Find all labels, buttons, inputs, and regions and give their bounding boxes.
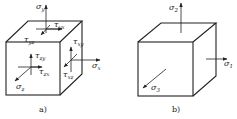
caption-b: b) (172, 105, 180, 114)
principal-stresses (143, 3, 227, 88)
sigma-z-arrow (15, 67, 31, 81)
label-tau-zx: τzx (39, 67, 50, 77)
label-tau-zy: τzy (35, 51, 46, 62)
label-tau-xz: τxz (63, 70, 74, 80)
label-tau-yz: τyz (24, 35, 35, 46)
tau-xz-arrow (64, 54, 77, 67)
caption-a: a) (39, 105, 47, 114)
label-sigma-z: σz (16, 82, 24, 92)
label-sigma-2: σ2 (169, 3, 178, 13)
panel-b-cube (138, 23, 216, 96)
label-sigma-x: σx (92, 61, 101, 71)
stress-element-diagram: σy τyx τyz τxy σx τxz τzy τzx σz a) σ2 σ… (0, 0, 237, 119)
label-tau-xy: τxy (73, 37, 85, 48)
label-sigma-1: σ1 (224, 59, 233, 69)
label-sigma-y: σy (36, 2, 45, 13)
label-sigma-3: σ3 (151, 83, 160, 93)
tau-yz-arrow (41, 25, 50, 35)
